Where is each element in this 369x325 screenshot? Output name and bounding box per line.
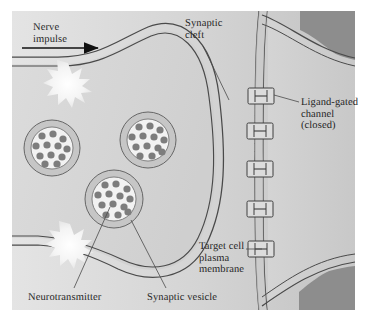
vesicle-left — [24, 120, 80, 176]
label-ligand-gated-channel: Ligand-gated channel (closed) — [301, 97, 358, 132]
label-nerve-impulse: Nerve impulse — [33, 22, 67, 45]
label-synaptic-vesicle: Synaptic vesicle — [147, 292, 217, 304]
target-cell-cytoplasm — [266, 18, 355, 304]
ligand-gated-channel — [247, 161, 273, 177]
ligand-gated-channel — [247, 201, 273, 217]
ligand-gated-channel — [247, 123, 273, 139]
vesicle-upper-right — [120, 112, 176, 168]
synapse-diagram: Nerve impulse Synaptic cleft Ligand-gate… — [0, 0, 369, 325]
vesicle-lower — [85, 170, 143, 228]
label-synaptic-cleft: Synaptic cleft — [185, 18, 223, 41]
diagram-canvas — [0, 0, 369, 325]
ligand-gated-channel — [248, 88, 274, 104]
label-neurotransmitter: Neurotransmitter — [28, 292, 101, 304]
label-target-cell-plasma-membrane: Target cell plasma membrane — [199, 241, 244, 276]
